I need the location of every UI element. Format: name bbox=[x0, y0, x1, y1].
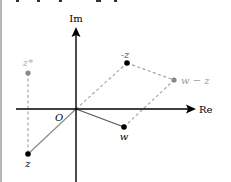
point-neg-z bbox=[124, 60, 130, 66]
point-w-minus-z bbox=[171, 77, 176, 82]
point-z-conj bbox=[25, 70, 30, 75]
label-w: w bbox=[120, 131, 129, 142]
label-z-conj: z* bbox=[22, 57, 33, 68]
label-neg-z: -z bbox=[121, 49, 130, 60]
origin-label: O bbox=[55, 112, 63, 123]
point-w bbox=[121, 124, 127, 130]
dashed-origin-to-negz bbox=[76, 63, 127, 109]
complex-plane-diagram: Im Re O w z -z z* w − z bbox=[0, 0, 231, 182]
vector-origin-to-z bbox=[28, 109, 76, 154]
label-w-minus-z: w − z bbox=[181, 75, 210, 86]
label-z: z bbox=[24, 158, 31, 169]
dashed-w-to-wminusz bbox=[124, 80, 174, 127]
vector-origin-to-w bbox=[76, 109, 124, 127]
real-axis-label: Re bbox=[199, 104, 213, 115]
point-z bbox=[25, 151, 31, 157]
dashed-negz-to-wminusz bbox=[127, 63, 174, 80]
imag-axis-label: Im bbox=[69, 13, 83, 24]
